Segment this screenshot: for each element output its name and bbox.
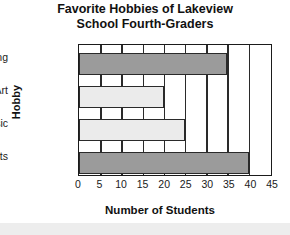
y-tick-label-music: Music (0, 117, 8, 129)
x-tick-label-20: 20 (152, 178, 176, 190)
x-tick-label-15: 15 (131, 178, 155, 190)
y-tick-label-sports: Sports (0, 150, 8, 162)
x-tick-label-30: 30 (195, 178, 219, 190)
x-tick-label-0: 0 (66, 178, 90, 190)
bottom-edge-band (0, 223, 290, 235)
chart-title-line-1: Favorite Hobbies of Lakeview (0, 2, 290, 17)
x-tick-label-5: 5 (88, 178, 112, 190)
y-tick-label-art: Art (0, 84, 8, 96)
chart-figure: Favorite Hobbies of Lakeview School Four… (0, 0, 290, 235)
x-axis-ticks: 0 5 10 15 20 25 30 35 40 45 (0, 178, 290, 194)
x-axis-label: Number of Students (40, 204, 280, 216)
bars-layer (79, 45, 271, 175)
y-tick-label-reading: Reading (0, 51, 8, 63)
bar-reading[interactable] (79, 53, 227, 75)
bar-art[interactable] (79, 86, 164, 108)
x-tick-label-25: 25 (174, 178, 198, 190)
bar-music[interactable] (79, 119, 185, 141)
plot-area (78, 44, 272, 176)
chart-title-line-2: School Fourth-Graders (0, 17, 290, 32)
x-tick-label-40: 40 (238, 178, 262, 190)
y-axis-label: Hobby (10, 72, 22, 132)
x-tick-label-45: 45 (260, 178, 284, 190)
chart-title: Favorite Hobbies of Lakeview School Four… (0, 2, 290, 32)
x-tick-label-35: 35 (217, 178, 241, 190)
bar-sports[interactable] (79, 152, 249, 174)
x-tick-label-10: 10 (109, 178, 133, 190)
